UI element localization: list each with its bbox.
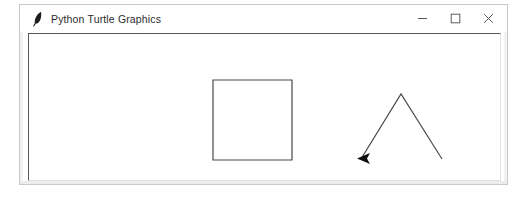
window-controls-group — [406, 5, 507, 32]
window-right-edge — [504, 32, 507, 184]
turtle-canvas-svg — [29, 34, 501, 181]
minimize-button[interactable] — [406, 5, 439, 32]
turtle-feather-icon — [30, 11, 44, 27]
minimize-icon — [417, 13, 428, 24]
triangle-shape — [361, 94, 442, 159]
close-icon — [483, 13, 494, 24]
maximize-icon — [450, 13, 461, 24]
close-button[interactable] — [472, 5, 505, 32]
turtle-graphics-window: Python Turtle Graphics — [19, 4, 508, 185]
window-title-text: Python Turtle Graphics — [51, 13, 161, 25]
square-shape — [213, 80, 292, 160]
turtle-drawing-canvas[interactable] — [28, 33, 501, 181]
window-bottom-edge — [20, 181, 507, 184]
maximize-button[interactable] — [439, 5, 472, 32]
window-left-edge — [20, 32, 23, 184]
window-title-bar[interactable]: Python Turtle Graphics — [20, 5, 507, 32]
